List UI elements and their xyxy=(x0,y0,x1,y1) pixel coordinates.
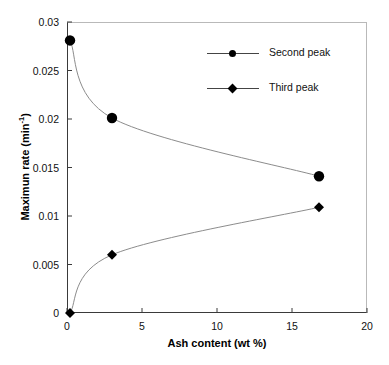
x-tick-label: 15 xyxy=(272,321,312,331)
legend-item[interactable]: Second peak xyxy=(207,44,347,79)
y-tick-label: 0.025 xyxy=(5,66,59,76)
x-tick-label: 20 xyxy=(347,321,387,331)
y-tick-label: 0.02 xyxy=(5,114,59,124)
y-tick-label: 0.015 xyxy=(5,163,59,173)
legend-circle-icon xyxy=(229,50,236,57)
y-tick-label: 0 xyxy=(5,308,59,318)
chart-legend: Second peakThird peak xyxy=(207,44,347,114)
y-axis-title-exponent: -1 xyxy=(17,117,26,124)
x-tick-label: 0 xyxy=(47,321,87,331)
x-axis-title: Ash content (wt %) xyxy=(67,337,367,349)
legend-label: Third peak xyxy=(269,81,319,93)
y-tick-label: 0.01 xyxy=(5,211,59,221)
legend-item[interactable]: Third peak xyxy=(207,79,347,114)
legend-diamond-icon xyxy=(228,84,238,94)
y-tick-label: 0.03 xyxy=(5,17,59,27)
y-axis-title: Maximun rate (min-1) xyxy=(17,57,31,277)
y-axis-title-text: Maximun rate (min xyxy=(19,123,31,220)
legend-label: Second peak xyxy=(269,46,330,58)
y-axis-title-suffix: ) xyxy=(19,113,31,117)
x-tick-label: 10 xyxy=(197,321,237,331)
x-tick-label: 5 xyxy=(122,321,162,331)
chart-figure: 00.0050.010.0150.020.0250.03 05101520 As… xyxy=(0,0,389,365)
y-tick-label: 0.005 xyxy=(5,260,59,270)
